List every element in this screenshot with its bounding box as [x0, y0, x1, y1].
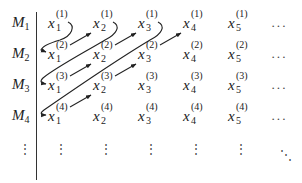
cell-x2-3: x(3)2 — [93, 78, 100, 93]
cell-x3-1: x(1)3 — [138, 16, 145, 31]
cell-x2-2: x(2)2 — [93, 47, 100, 62]
diagonal-dots: ⋱ — [280, 148, 292, 163]
cell-x3-3: x(3)3 — [138, 78, 145, 93]
cell-x4-4: x(4)4 — [183, 109, 190, 124]
col3-vdots: ⋮ — [145, 147, 151, 152]
cell-x4-1: x(1)4 — [183, 16, 190, 31]
cell-x1-3: x(3)1 — [48, 78, 55, 93]
row4-hdots: ··· — [271, 111, 287, 127]
cell-x1-2: x(2)1 — [48, 47, 55, 62]
col5-vdots: ⋮ — [235, 147, 241, 152]
straight-arrow-6 — [160, 33, 181, 45]
row2-hdots: ··· — [271, 49, 287, 65]
cell-x4-2: x(2)4 — [183, 47, 190, 62]
cell-x3-4: x(4)3 — [138, 109, 145, 124]
cell-x5-1: x(1)5 — [228, 16, 235, 31]
row3-hdots: ··· — [271, 80, 287, 96]
cell-x1-4: x(4)1 — [48, 109, 55, 124]
cell-x3-2: x(2)3 — [138, 47, 145, 62]
col1-vdots: ⋮ — [55, 147, 61, 152]
cell-x4-3: x(3)4 — [183, 78, 190, 93]
cell-x1-1: x(1)1 — [48, 16, 55, 31]
cell-x2-1: x(1)2 — [93, 16, 100, 31]
cell-x5-3: x(3)5 — [228, 78, 235, 93]
straight-arrow-3 — [115, 33, 136, 45]
separator-line — [36, 12, 37, 180]
row-label-vdots: ⋮ — [19, 147, 25, 152]
cell-x5-2: x(2)5 — [228, 47, 235, 62]
cell-x2-4: x(4)2 — [93, 109, 100, 124]
straight-arrow-4 — [70, 95, 91, 107]
col4-vdots: ⋮ — [190, 147, 196, 152]
straight-arrow-5 — [115, 64, 136, 76]
row1-hdots: ··· — [271, 18, 287, 34]
cell-x5-4: x(4)5 — [228, 109, 235, 124]
straight-arrow-1 — [70, 33, 91, 45]
col2-vdots: ⋮ — [100, 147, 106, 152]
straight-arrow-2 — [70, 64, 91, 76]
